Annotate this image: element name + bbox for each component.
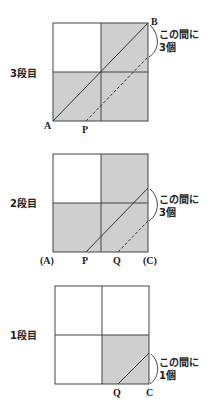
note-line1: この間に — [159, 194, 199, 205]
point-p-label: P — [82, 255, 88, 266]
note-line2: 3個 — [159, 41, 176, 53]
note-line1: この間に — [159, 357, 199, 368]
point-c-label: C — [146, 387, 153, 398]
point-q-label: Q — [113, 255, 121, 266]
brace-arc — [150, 354, 158, 384]
panel-1: 1段目 Q C この間に 1個 — [10, 286, 199, 398]
row-label: 3段目 — [10, 67, 37, 79]
panel-2: 2段目 (A) P Q (C) この間に 3個 — [10, 154, 199, 267]
note-line2: 3個 — [159, 206, 176, 218]
point-b-label: B — [151, 16, 158, 27]
brace-arc — [149, 25, 157, 57]
cube-layers-diagram: 3段目 A P B この間に 3個 2段目 (A) P Q (C) この間に 3… — [0, 0, 212, 418]
row-label: 2段目 — [10, 197, 37, 209]
point-a-label: A — [44, 120, 52, 131]
row-label: 1段目 — [10, 329, 37, 341]
point-p-label: P — [82, 124, 88, 135]
note-line1: この間に — [159, 29, 199, 40]
point-c-label: (C) — [143, 255, 157, 267]
panel-3: 3段目 A P B この間に 3個 — [10, 16, 199, 135]
point-q-label: Q — [113, 387, 121, 398]
point-a-label: (A) — [40, 255, 54, 267]
brace-arc — [149, 189, 157, 221]
note-line2: 1個 — [159, 369, 176, 381]
